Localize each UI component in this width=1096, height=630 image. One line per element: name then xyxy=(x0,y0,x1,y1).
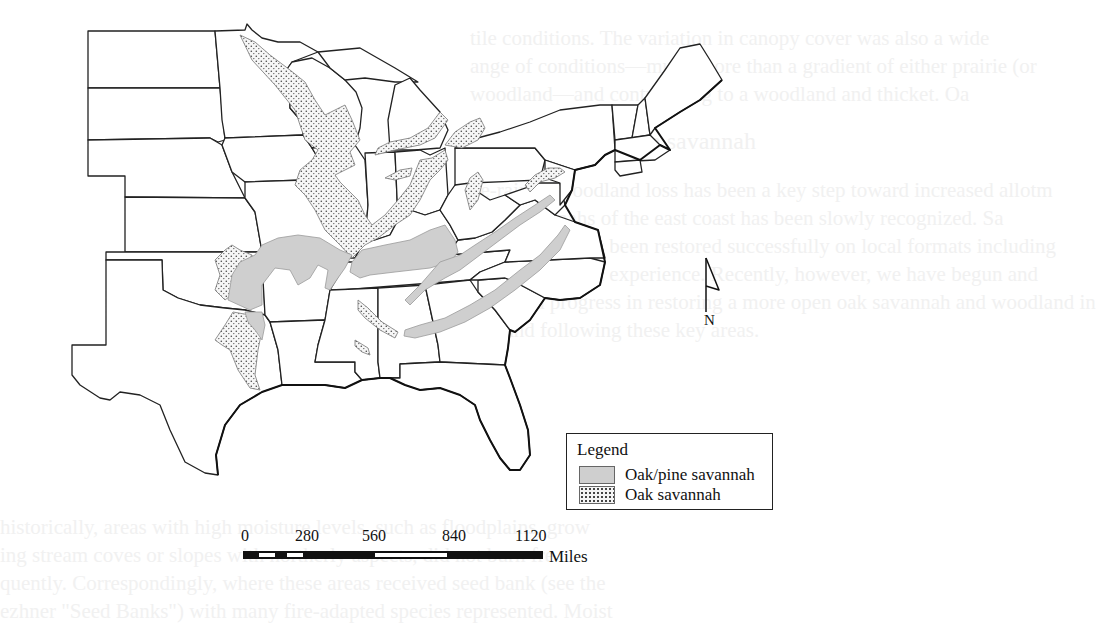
scale-tick: 1120 xyxy=(515,527,546,545)
oak-savannah-swatch xyxy=(579,486,615,504)
state-connecticut xyxy=(615,160,642,176)
state-south-dakota xyxy=(88,88,225,142)
legend-item-oak-pine-savannah: Oak/pine savannah xyxy=(579,466,755,484)
north-arrow-icon xyxy=(697,256,727,316)
north-arrow: N xyxy=(697,256,727,336)
scale-bar-segment xyxy=(375,553,447,557)
scale-bar-segment xyxy=(259,553,275,557)
scale-tick: 280 xyxy=(295,527,319,545)
scale-tick: 560 xyxy=(362,527,386,545)
scale-bar: 0 280 560 840 1120 Miles xyxy=(237,527,617,577)
map-legend: Legend Oak/pine savannah Oak savannah xyxy=(566,433,773,510)
state-north-dakota xyxy=(88,31,220,88)
scale-tick: 0 xyxy=(241,527,249,545)
scale-tick: 840 xyxy=(442,527,466,545)
scale-bar-segment xyxy=(287,553,303,557)
state-kansas xyxy=(125,197,262,252)
north-label: N xyxy=(704,312,715,329)
legend-label: Oak/pine savannah xyxy=(625,465,755,485)
legend-label: Oak savannah xyxy=(625,485,721,505)
scale-unit: Miles xyxy=(549,547,588,567)
legend-title: Legend xyxy=(577,440,628,460)
oak-pine-swatch xyxy=(579,466,615,484)
legend-item-oak-savannah: Oak savannah xyxy=(579,486,721,504)
state-nebraska xyxy=(88,138,245,198)
state-florida xyxy=(390,362,530,470)
